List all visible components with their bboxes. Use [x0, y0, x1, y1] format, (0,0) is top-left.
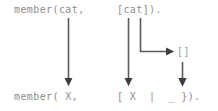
clause-list-argument-text: [ X | _ }).: [117, 91, 200, 103]
clause-functor-text: member( X,: [14, 91, 78, 103]
diagram-canvas: member(cat, [cat]). [] member( X, [ X | …: [0, 0, 218, 111]
arrow-list-to-emptylist-icon: [141, 18, 167, 52]
goal-list-argument-text: [cat]).: [117, 4, 162, 16]
goal-functor-text: member(cat,: [14, 4, 85, 16]
empty-list-text: []: [177, 46, 190, 58]
